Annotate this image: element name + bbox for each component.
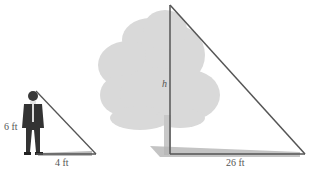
similar-triangles-diagram: 6 ft 4 ft h 26 ft <box>0 0 309 178</box>
person-height-label: 6 ft <box>4 122 18 132</box>
person-shadow-label: 4 ft <box>55 158 69 168</box>
tree-height-label: h <box>162 79 167 89</box>
person-triangle <box>36 91 96 154</box>
person-figure <box>22 91 44 155</box>
tree-shadow <box>150 146 300 157</box>
tree-illustration <box>98 10 220 155</box>
diagram-canvas <box>0 0 309 178</box>
tree-shadow-label: 26 ft <box>226 158 245 168</box>
